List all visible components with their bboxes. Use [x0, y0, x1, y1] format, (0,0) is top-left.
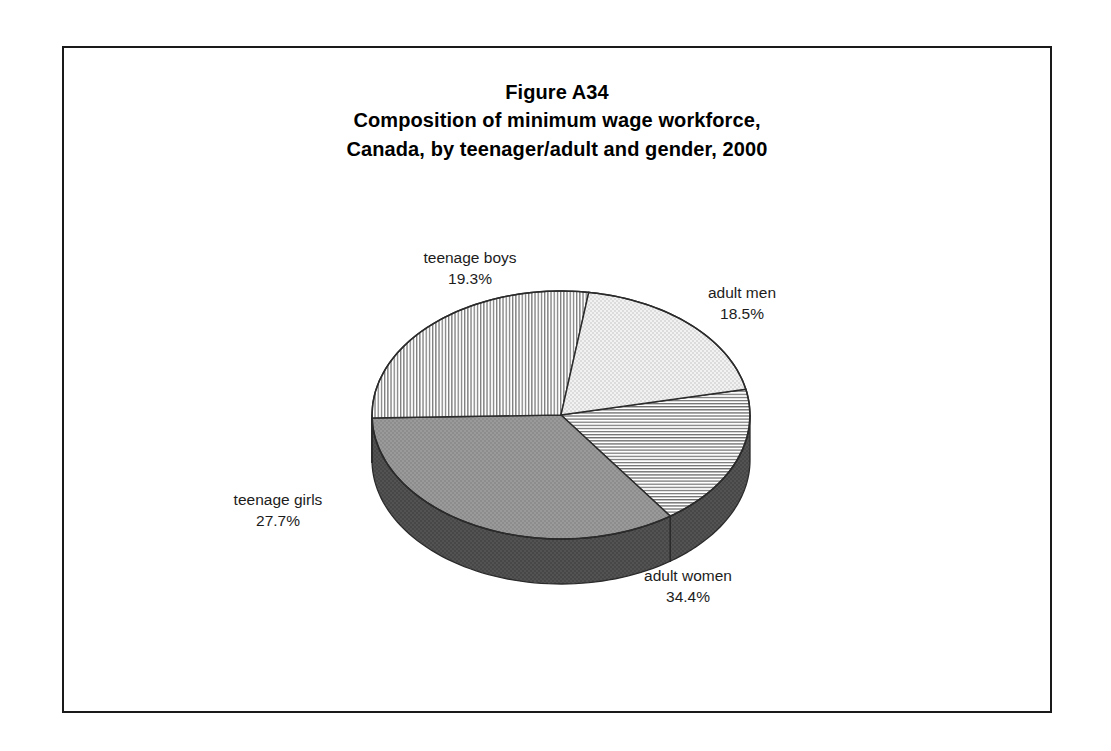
slice-label-teenage-girls-value: 27.7% [188, 511, 368, 532]
slice-label-teenage-boys-name: teenage boys [380, 248, 560, 269]
slice-label-adult-women-value: 34.4% [588, 587, 788, 608]
pie-slice-teenage-girls [372, 291, 589, 418]
pie-chart [0, 0, 1111, 751]
pie-3d-body [372, 291, 750, 584]
slice-label-adult-women: adult women 34.4% [588, 566, 788, 607]
slice-label-teenage-girls: teenage girls 27.7% [188, 490, 368, 531]
slice-label-adult-men: adult men 18.5% [652, 283, 832, 324]
slice-label-adult-women-name: adult women [588, 566, 788, 587]
figure-page: Figure A34 Composition of minimum wage w… [0, 0, 1111, 751]
slice-label-teenage-boys: teenage boys 19.3% [380, 248, 560, 289]
slice-label-teenage-boys-value: 19.3% [380, 269, 560, 290]
slice-label-teenage-girls-name: teenage girls [188, 490, 368, 511]
slice-label-adult-men-name: adult men [652, 283, 832, 304]
slice-label-adult-men-value: 18.5% [652, 304, 832, 325]
